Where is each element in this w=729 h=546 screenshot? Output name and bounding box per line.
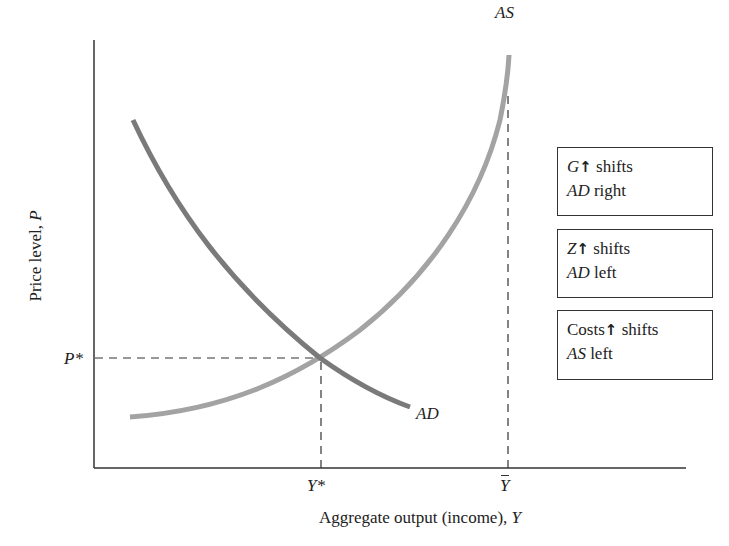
y-bar-symbol: Y [500,477,509,494]
box-text: shifts [592,157,633,176]
y-star-label: Y* [307,477,325,494]
p-star-label: P* [64,350,83,367]
x-axis-title-text: Aggregate output (income), [319,508,512,527]
up-arrow-icon: ↑ [576,240,589,258]
box-text2: left [590,263,617,282]
box-var2: AD [567,263,590,282]
x-axis-title: Aggregate output (income), Y [319,508,521,528]
annotation-box-z: Z↑ shifts AD left [557,229,713,298]
annotation-box-costs: Costs↑ shifts AS left [557,310,713,380]
box-text: shifts [589,239,630,258]
box-text: shifts [617,320,658,339]
box-var2: AS [567,344,586,363]
box-var: G [567,157,579,176]
up-arrow-icon: ↑ [579,158,592,176]
box-text2: right [590,181,626,200]
ad-curve-label: AD [416,405,439,422]
box-var: Costs [567,320,605,339]
as-curve-label: AS [495,4,514,21]
up-arrow-icon: ↑ [605,321,618,339]
y-bar-label: Y [500,477,509,494]
x-axis-title-var: Y [512,508,521,527]
as-curve [130,55,509,417]
y-axis-title: Price level, P [26,210,46,301]
annotation-box-g: G↑ shifts AD right [557,147,713,216]
y-axis-title-var: P [26,210,45,220]
box-text2: left [586,344,613,363]
y-axis-title-text: Price level, [26,221,45,302]
box-var2: AD [567,181,590,200]
ad-curve [133,120,410,407]
